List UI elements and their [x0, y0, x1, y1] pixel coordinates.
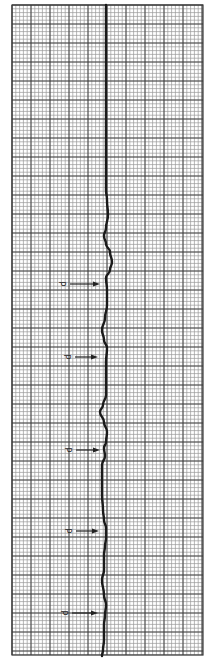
ecg-strip: PPPPP — [0, 0, 213, 665]
p-wave-label: P — [59, 611, 68, 616]
p-wave-label: P — [57, 282, 66, 287]
p-wave-label: P — [62, 355, 71, 360]
p-wave-label: P — [63, 529, 72, 534]
p-wave-label: P — [63, 448, 72, 453]
